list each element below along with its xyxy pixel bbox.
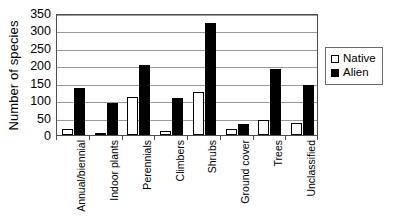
bar-native [193, 92, 204, 135]
bar-group [155, 15, 188, 135]
filled-square-icon [331, 69, 339, 77]
y-axis-tick-label: 0 [44, 130, 51, 143]
y-axis-tick-label: 100 [30, 95, 51, 108]
y-axis-tick-label: 50 [37, 112, 51, 125]
y-axis-tick-labels: 050100150200250300350 [22, 14, 53, 136]
bar-group [188, 15, 221, 135]
plot-area [56, 14, 318, 136]
bar-alien [139, 65, 150, 135]
bar-alien [270, 69, 281, 135]
bar-alien [238, 124, 249, 135]
x-axis-tick-label: Perennials [142, 140, 153, 190]
bar-chart: Number of species 050100150200250300350 … [0, 0, 395, 221]
bar-group [123, 15, 156, 135]
legend-item[interactable]: Alien [331, 66, 376, 80]
legend-item-label: Native [343, 53, 376, 65]
bar-native [62, 129, 73, 135]
y-axis-tick-label: 350 [30, 8, 51, 21]
bar-group [254, 15, 287, 135]
bar-group [90, 15, 123, 135]
bar-native [258, 120, 269, 135]
x-axis-tick-labels: Annual/biennialIndoor plantsPerennialsCl… [56, 140, 318, 220]
y-axis-title-text: Number of species [6, 20, 21, 130]
x-axis-tick-label: Climbers [175, 140, 186, 181]
x-axis-tick-label: Ground cover [240, 140, 251, 204]
bars-layer [57, 15, 317, 135]
hollow-square-icon [331, 55, 339, 63]
bar-alien [303, 85, 314, 135]
x-axis-tick-label: Indoor plants [109, 140, 120, 201]
x-axis-tick-label: Unclassified [306, 140, 317, 197]
y-axis-tick-label: 300 [30, 25, 51, 38]
legend-item[interactable]: Native [331, 52, 376, 66]
x-axis-tick-label: Trees [273, 140, 284, 166]
bar-native [127, 97, 138, 135]
bar-native [160, 131, 171, 135]
bar-group [221, 15, 254, 135]
bar-alien [74, 88, 85, 135]
y-axis-tick-label: 250 [30, 43, 51, 56]
bar-alien [172, 98, 183, 135]
chart-legend: NativeAlien [325, 47, 383, 85]
bar-alien [205, 23, 216, 135]
y-axis-tick-label: 150 [30, 77, 51, 90]
bar-native [291, 123, 302, 135]
x-axis-tick-label: Shrubs [207, 140, 218, 173]
y-axis-tick-label: 200 [30, 60, 51, 73]
bar-native [226, 129, 237, 135]
x-axis-tick-label: Annual/biennial [76, 140, 87, 212]
bar-native [95, 133, 106, 135]
bar-alien [107, 103, 118, 135]
legend-item-label: Alien [343, 67, 369, 79]
bar-group [286, 15, 319, 135]
bar-group [57, 15, 90, 135]
